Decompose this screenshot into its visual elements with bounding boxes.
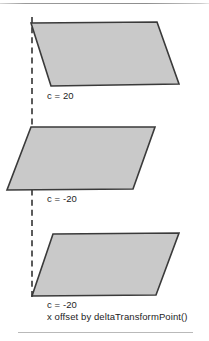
caption-shape-3: c = -20 [47, 299, 77, 311]
caption-shape-3-note: x offset by deltaTransformPoint() [47, 311, 188, 323]
skew-transform-figure: c = 20 c = -20 c = -20 x offset by delta… [0, 0, 209, 341]
parallelogram-shapes-layer [0, 0, 209, 341]
caption-shape-1: c = 20 [47, 90, 74, 102]
caption-shape-2: c = -20 [47, 193, 77, 205]
parallelogram-c-positive-20 [31, 22, 179, 86]
bottom-divider-rule [18, 332, 193, 333]
parallelogram-c-negative-20 [7, 127, 155, 190]
parallelogram-c-negative-20-offset [32, 233, 179, 296]
